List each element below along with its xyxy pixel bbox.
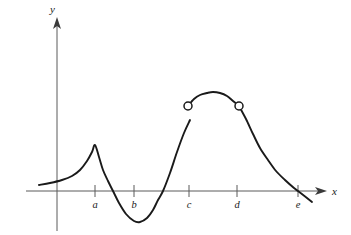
curve-segment-right-branch — [239, 106, 312, 202]
open-circle-at-d — [235, 102, 243, 110]
tick-label-d: d — [234, 199, 240, 210]
graph-canvas: y x a b c d e — [0, 0, 351, 235]
x-axis-label: x — [331, 185, 337, 197]
curve-segment-left-branch — [39, 120, 190, 222]
tick-label-c: c — [187, 199, 192, 210]
tick-label-a: a — [92, 199, 97, 210]
tick-label-b: b — [131, 199, 136, 210]
tick-label-e: e — [296, 199, 301, 210]
y-axis-label: y — [49, 3, 55, 15]
function-graph-figure: y x a b c d e — [0, 0, 351, 235]
function-curve-group — [39, 92, 312, 222]
axes-group — [26, 17, 327, 231]
open-circle-at-c — [184, 102, 192, 110]
curve-segment-arch — [188, 92, 239, 106]
open-points-group — [184, 102, 243, 110]
